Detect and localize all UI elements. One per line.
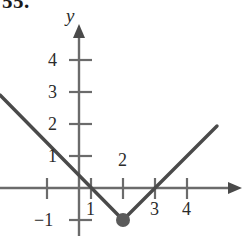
x-tick-label-1: 1 (86, 200, 95, 218)
graph-figure: 55. y 4 3 2 1 −1 1 2 3 4 (0, 0, 245, 236)
y-tick-label-4: 4 (48, 51, 57, 69)
y-tick-label-2: 2 (48, 115, 57, 133)
coordinate-plane (0, 0, 245, 236)
y-axis-label: y (66, 6, 74, 25)
y-tick-label-1: 1 (48, 147, 57, 165)
y-axis-arrowhead (73, 24, 85, 38)
x-tick-label-2: 2 (118, 151, 127, 169)
x-axis-arrowhead (228, 182, 242, 194)
y-tick-label-minus-1: −1 (34, 211, 53, 229)
y-tick-label-3: 3 (48, 83, 57, 101)
x-tick-label-3: 3 (150, 200, 159, 218)
curve-left-branch (0, 95, 123, 220)
vertex-point (116, 213, 130, 227)
x-tick-label-4: 4 (182, 200, 191, 218)
curve-right-branch (123, 126, 217, 220)
